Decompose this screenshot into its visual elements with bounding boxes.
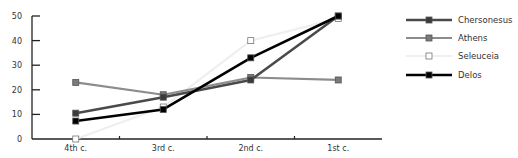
y-tick-label: 20	[12, 86, 22, 95]
line-chart: 01020304050 4th c.3rd c.2nd c.1st c. Che…	[0, 0, 518, 158]
data-point-marker	[248, 77, 254, 83]
legend-label: Chersonesus	[458, 15, 513, 25]
legend-item-athens: Athens	[406, 33, 488, 43]
x-tick-label: 4th c.	[64, 144, 87, 153]
x-tick-label: 1st c.	[327, 144, 349, 153]
data-point-marker	[73, 136, 79, 142]
legend-item-seleuceia: Seleuceia	[406, 51, 499, 61]
y-tick-label: 10	[12, 110, 22, 119]
x-tick-label: 3rd c.	[152, 144, 175, 153]
data-point-marker	[248, 38, 254, 44]
legend-item-chersonesus: Chersonesus	[406, 15, 513, 25]
series-athens	[73, 75, 342, 98]
series-layer	[73, 13, 342, 142]
data-point-marker	[248, 55, 254, 61]
legend-swatch-marker	[426, 17, 432, 23]
legend-label: Delos	[458, 70, 482, 80]
data-point-marker	[73, 110, 79, 116]
y-tick-label: 0	[17, 135, 22, 144]
data-point-marker	[160, 106, 166, 112]
y-axis: 01020304050	[12, 12, 40, 144]
data-point-marker	[335, 13, 341, 19]
legend-label: Seleuceia	[458, 51, 499, 61]
y-tick-label: 40	[12, 37, 22, 46]
legend-swatch-marker	[426, 35, 432, 41]
legend-swatch-marker	[426, 72, 432, 78]
x-axis: 4th c.3rd c.2nd c.1st c.	[32, 136, 382, 153]
y-tick-label: 50	[12, 12, 22, 21]
data-point-marker	[73, 79, 79, 85]
legend-label: Athens	[458, 33, 488, 43]
legend: ChersonesusAthensSeleuceiaDelos	[406, 15, 513, 80]
data-point-marker	[335, 77, 341, 83]
data-point-marker	[160, 94, 166, 100]
x-tick-label: 2nd c.	[238, 144, 263, 153]
legend-item-delos: Delos	[406, 70, 482, 80]
legend-swatch-marker	[426, 53, 432, 59]
y-tick-label: 30	[12, 61, 22, 70]
data-point-marker	[73, 118, 79, 124]
